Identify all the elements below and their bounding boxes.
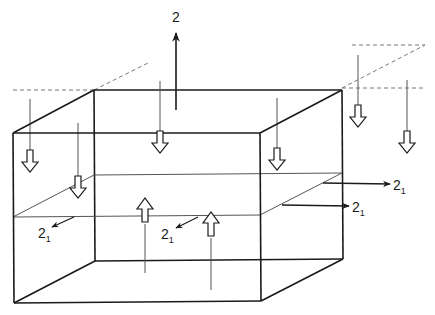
diag-arrow-center: [176, 217, 198, 228]
dashed-guides: [13, 45, 425, 90]
up-arrow-icon: [137, 198, 153, 222]
down-arrow-icon: [399, 131, 415, 153]
middle-plane: [13, 173, 342, 217]
right-arrow-upper: [323, 183, 390, 184]
box-diagram: 2 21 21 21 21: [0, 0, 435, 315]
down-arrow-icon: [152, 131, 168, 153]
up-arrows: [137, 198, 219, 236]
label-right-upper: 21: [393, 177, 406, 196]
box-back-edges: [94, 90, 343, 261]
label-right-lower: 21: [352, 199, 365, 218]
down-arrow-icon: [269, 148, 285, 170]
down-arrow-icon: [22, 150, 38, 172]
label-center-inner: 21: [161, 226, 174, 245]
box-front-edges: [13, 90, 343, 303]
down-arrow-icon: [70, 176, 86, 198]
label-top: 2: [172, 9, 180, 25]
right-arrow-lower: [282, 205, 349, 206]
label-left-inner: 21: [38, 225, 51, 244]
down-arrow-icon: [350, 105, 366, 127]
diag-arrow-left: [52, 217, 74, 227]
